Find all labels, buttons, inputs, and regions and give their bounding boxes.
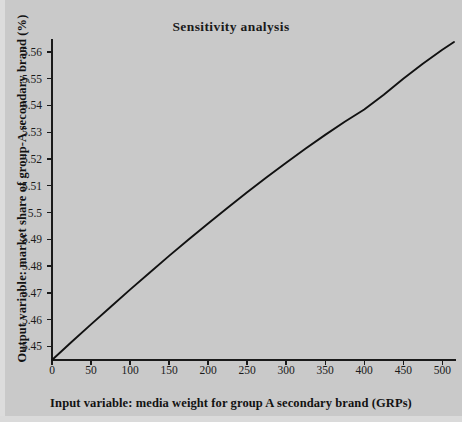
- y-tick-label-11: 5.56: [0, 46, 42, 58]
- y-tick-label-5: 5.5: [0, 207, 42, 219]
- plot-svg: [0, 0, 462, 422]
- x-tick-label-1: 50: [71, 364, 111, 376]
- y-tick-label-1: 5.46: [0, 314, 42, 326]
- y-tick-label-4: 5.49: [0, 233, 42, 245]
- x-tick-label-7: 350: [305, 364, 345, 376]
- x-tick-label-4: 200: [188, 364, 228, 376]
- y-tick-label-2: 5.47: [0, 287, 42, 299]
- y-tick-label-8: 5.53: [0, 126, 42, 138]
- y-tick-label-7: 5.52: [0, 153, 42, 165]
- y-tick-label-9: 5.54: [0, 99, 42, 111]
- data-line-0: [52, 42, 454, 360]
- x-tick-label-3: 150: [149, 364, 189, 376]
- y-tick-label-0: 5.45: [0, 340, 42, 352]
- x-tick-label-9: 450: [383, 364, 423, 376]
- plot-area: 5.455.465.475.485.495.55.515.525.535.545…: [0, 0, 462, 422]
- figure-container: Sensitivity analysis Output variable: ma…: [0, 0, 462, 422]
- x-tick-label-8: 400: [344, 364, 384, 376]
- y-tick-label-3: 5.48: [0, 260, 42, 272]
- y-tick-label-6: 5.51: [0, 180, 42, 192]
- x-tick-label-5: 250: [227, 364, 267, 376]
- x-tick-label-10: 500: [422, 364, 462, 376]
- x-tick-label-2: 100: [110, 364, 150, 376]
- x-tick-label-6: 300: [266, 364, 306, 376]
- x-tick-label-0: 0: [32, 364, 72, 376]
- axes-group: [47, 39, 456, 365]
- y-tick-label-10: 5.55: [0, 73, 42, 85]
- data-series-group: [52, 42, 454, 360]
